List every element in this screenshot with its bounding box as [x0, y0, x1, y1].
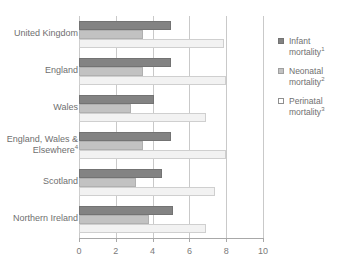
- category-label: Wales: [0, 102, 78, 113]
- legend-swatch-icon: [278, 68, 284, 74]
- legend-label-line2: mortality2: [289, 77, 346, 88]
- bar: [79, 113, 206, 122]
- gridline-0: [79, 16, 80, 238]
- legend-label-line1: Infant: [289, 36, 346, 47]
- gridline-2: [116, 16, 117, 238]
- bar: [79, 67, 143, 76]
- legend-item[interactable]: Infantmortality1: [278, 36, 346, 57]
- legend-label-line2: mortality3: [289, 107, 346, 118]
- legend-item[interactable]: Perinatalmortality3: [278, 96, 346, 117]
- legend-label-line1: Neonatal: [289, 66, 346, 77]
- x-tick-label: 6: [187, 246, 192, 256]
- category-label: United Kingdom: [0, 28, 78, 39]
- category-label: England: [0, 65, 78, 76]
- bar: [79, 187, 215, 196]
- x-tick-mark: [79, 238, 80, 242]
- category-label: Scotland: [0, 176, 78, 187]
- gridline-10: [263, 16, 264, 238]
- bar: [79, 132, 171, 141]
- bar: [79, 169, 162, 178]
- category-label: England, Wales &Elsewhere4: [0, 134, 78, 156]
- bar-group: [79, 132, 263, 159]
- gridline-4: [153, 16, 154, 238]
- x-tick-label: 4: [150, 246, 155, 256]
- bar: [79, 104, 131, 113]
- bar: [79, 141, 143, 150]
- x-tick-label: 2: [113, 246, 118, 256]
- bar: [79, 30, 143, 39]
- bar: [79, 178, 136, 187]
- legend-item[interactable]: Neonatalmortality2: [278, 66, 346, 87]
- x-tick-mark: [153, 238, 154, 242]
- legend-swatch-icon: [278, 38, 284, 44]
- bar-group: [79, 95, 263, 122]
- x-tick-mark: [263, 238, 264, 242]
- x-tick-mark: [226, 238, 227, 242]
- gridline-6: [189, 16, 190, 238]
- legend-swatch-icon: [278, 98, 284, 104]
- bar-group: [79, 21, 263, 48]
- x-axis-line: [79, 238, 263, 239]
- x-tick-label: 8: [224, 246, 229, 256]
- bar: [79, 95, 154, 104]
- mortality-bar-chart: Infantmortality1Neonatalmortality2Perina…: [0, 0, 346, 270]
- bar-group: [79, 58, 263, 85]
- bar: [79, 224, 206, 233]
- x-tick-label: 0: [76, 246, 81, 256]
- x-tick-mark: [116, 238, 117, 242]
- gridline-8: [226, 16, 227, 238]
- bar: [79, 39, 224, 48]
- legend-label-line1: Perinatal: [289, 96, 346, 107]
- chart-legend: Infantmortality1Neonatalmortality2Perina…: [278, 36, 346, 126]
- x-tick-mark: [189, 238, 190, 242]
- plot-area: [79, 16, 263, 238]
- bar: [79, 21, 171, 30]
- legend-label-line2: mortality1: [289, 47, 346, 58]
- bar: [79, 150, 226, 159]
- bar: [79, 76, 226, 85]
- category-label: Northern Ireland: [0, 213, 78, 224]
- x-tick-label: 10: [258, 246, 268, 256]
- bar-group: [79, 206, 263, 233]
- bar-group: [79, 169, 263, 196]
- bar: [79, 58, 171, 67]
- bar: [79, 215, 149, 224]
- bar: [79, 206, 173, 215]
